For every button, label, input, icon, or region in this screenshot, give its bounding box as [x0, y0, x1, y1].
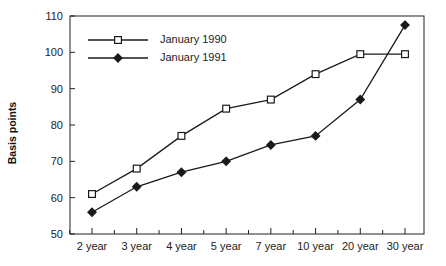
x-axis-ticks: 2 year3 year4 year5 year7 year10 year20 …: [70, 228, 424, 252]
chart-legend: January 1990January 1991: [88, 33, 227, 63]
legend-item: January 1991: [88, 51, 227, 63]
y-tick-label: 70: [51, 155, 63, 167]
line-chart: 5060708090100110 2 year3 year4 year5 yea…: [0, 0, 446, 266]
data-point: [402, 51, 409, 58]
legend-label: January 1990: [160, 33, 227, 45]
series-1: [89, 51, 409, 198]
x-tick-label: 7 year: [256, 240, 287, 252]
data-point: [88, 208, 96, 216]
data-point: [178, 133, 185, 140]
y-tick-label: 80: [51, 119, 63, 131]
y-axis-title: Basis points: [6, 102, 18, 165]
x-tick-label: 20 year: [342, 240, 379, 252]
series-path: [92, 54, 405, 194]
series-layer: [88, 21, 409, 216]
data-point: [312, 71, 319, 78]
plot-frame: [70, 16, 424, 234]
x-tick-label: 4 year: [166, 240, 197, 252]
data-point: [133, 183, 141, 191]
legend-marker: [115, 37, 122, 44]
plot-border: [70, 16, 424, 234]
x-tick-label: 30 year: [387, 240, 424, 252]
data-point: [222, 157, 230, 165]
legend-item: January 1990: [88, 33, 227, 45]
x-tick-label: 3 year: [121, 240, 152, 252]
legend-label: January 1991: [160, 51, 227, 63]
y-tick-label: 50: [51, 228, 63, 240]
data-point: [89, 191, 96, 198]
y-tick-label: 110: [45, 10, 63, 22]
data-point: [223, 105, 230, 112]
data-point: [267, 141, 275, 149]
x-tick-label: 10 year: [297, 240, 334, 252]
legend-marker: [114, 54, 122, 62]
data-point: [133, 165, 140, 172]
x-tick-label: 5 year: [211, 240, 242, 252]
y-tick-label: 60: [51, 192, 63, 204]
x-tick-label: 2 year: [77, 240, 108, 252]
y-tick-label: 90: [51, 83, 63, 95]
chart-container: 5060708090100110 2 year3 year4 year5 yea…: [0, 0, 446, 266]
data-point: [267, 96, 274, 103]
y-tick-label: 100: [45, 46, 63, 58]
data-point: [401, 21, 409, 29]
data-point: [357, 51, 364, 58]
data-point: [177, 168, 185, 176]
